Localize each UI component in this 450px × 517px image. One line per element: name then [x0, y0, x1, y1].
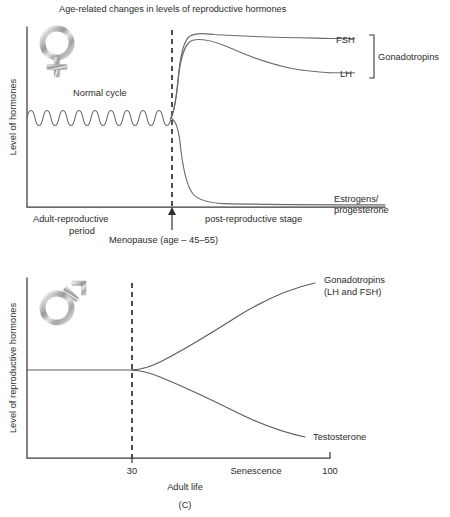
post-reproductive-stage-label: post-reproductive stage	[205, 214, 302, 224]
mars-symbol	[43, 281, 87, 323]
senescence-label: Senescence	[230, 466, 281, 476]
lh-label: LH	[340, 69, 352, 79]
adult-reproductive-period-line2: period	[69, 226, 95, 236]
male-gonadotropins-curve	[132, 283, 315, 370]
panel-male: Level of reproductive hormones Gonadotr	[8, 275, 385, 510]
estrogens-progesterone-curve	[171, 118, 385, 205]
female-y-axis-label: Level of hormones	[8, 78, 18, 155]
figure-title: Age-related changes in levels of reprodu…	[59, 4, 287, 14]
estrogens-label-line1: Estrogens/	[334, 194, 379, 204]
panel-letter: (C)	[179, 500, 192, 510]
male-x-axis-label: Adult life	[167, 482, 203, 492]
menopause-arrow-head	[168, 207, 176, 215]
venus-symbol	[43, 29, 72, 78]
female-axes	[27, 27, 385, 207]
adult-reproductive-period-line1: Adult-reproductive	[33, 214, 108, 224]
fsh-label: FSH	[336, 35, 355, 45]
panel-female: Level of hormones Normal cycle F	[8, 27, 439, 245]
gonadotropins-bracket	[369, 35, 374, 78]
x-tick-label-30: 30	[127, 466, 137, 476]
estrogens-label-line2: progesterone	[334, 205, 389, 215]
lh-curve	[171, 40, 330, 118]
male-testosterone-curve	[132, 370, 305, 437]
normal-cycle-curve	[27, 111, 171, 126]
male-y-axis-label: Level of reproductive hormones	[8, 303, 18, 434]
normal-cycle-label: Normal cycle	[73, 88, 127, 98]
hormone-figure: Age-related changes in levels of reprodu…	[0, 0, 450, 517]
fsh-curve	[171, 34, 330, 118]
x-tick-label-100: 100	[322, 466, 338, 476]
male-testosterone-label: Testosterone	[313, 432, 366, 442]
menopause-label: Menopause (age – 45–55)	[109, 235, 218, 245]
gonadotropins-label: Gonadotropins	[378, 52, 439, 62]
male-gonadotropins-label-line2: (LH and FSH)	[324, 287, 381, 297]
male-gonadotropins-label-line1: Gonadotropins	[324, 275, 385, 285]
